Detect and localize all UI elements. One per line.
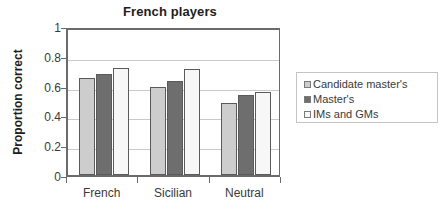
bar-chart: French players Proportion correct 00.20.…: [0, 0, 443, 214]
x-axis-tick-mark: [137, 177, 138, 183]
bar: [238, 95, 254, 175]
y-axis-tick-label: 0.4: [31, 111, 61, 123]
bar: [79, 78, 95, 175]
legend-item: IMs and GMs: [304, 107, 437, 121]
bar: [150, 87, 166, 175]
legend-item-label: Master's: [313, 94, 354, 105]
y-axis-tick-label: 0.8: [31, 52, 61, 64]
chart-title: French players: [60, 4, 280, 19]
x-axis-tick-label: French: [66, 186, 138, 200]
chart-legend: Candidate master's Master's IMs and GMs: [296, 72, 438, 123]
legend-swatch-icon: [304, 96, 311, 103]
bar: [167, 81, 183, 175]
bar: [113, 68, 129, 175]
plot-area: [66, 28, 280, 177]
gridline: [68, 60, 279, 61]
bar: [255, 92, 271, 175]
y-axis-tick-label: 0.2: [31, 141, 61, 153]
y-axis-tick-label: 0: [31, 171, 61, 183]
legend-swatch-icon: [304, 81, 311, 88]
bar: [96, 74, 112, 175]
y-axis-tick-label: 0.6: [31, 82, 61, 94]
x-axis-tick-mark: [280, 177, 281, 183]
legend-item: Master's: [304, 92, 437, 106]
legend-item: Candidate master's: [304, 77, 437, 91]
x-axis-tick-mark: [209, 177, 210, 183]
legend-item-label: Candidate master's: [313, 79, 407, 90]
bar: [184, 69, 200, 175]
legend-item-label: IMs and GMs: [313, 109, 378, 120]
y-axis-tick-label: 1: [31, 22, 61, 34]
x-axis-tick-label: Neutral: [208, 186, 280, 200]
x-axis-tick-label: Sicilian: [137, 186, 209, 200]
bar: [221, 103, 237, 175]
legend-swatch-icon: [304, 111, 311, 118]
x-axis-tick-mark: [66, 177, 67, 183]
y-axis-title: Proportion correct: [11, 27, 25, 177]
